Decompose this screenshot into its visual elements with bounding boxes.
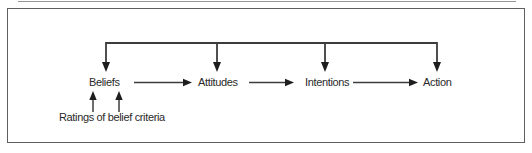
feedback-arrowhead-beliefs: [102, 62, 110, 72]
node-action: Action: [423, 76, 451, 89]
feedback-arrowhead-attitudes: [213, 62, 221, 72]
node-intentions: Intentions: [305, 76, 349, 89]
input-criteria-label: Ratings of belief criteria: [59, 111, 165, 124]
feedback-arrowhead-intentions: [321, 62, 329, 72]
input-arrowhead-left: [89, 91, 96, 100]
arrows-layer: [0, 0, 532, 153]
feedback-line: [106, 43, 437, 63]
node-beliefs: Beliefs: [89, 76, 120, 89]
input-arrowhead-right: [115, 91, 122, 100]
flow-arrowhead-beliefs-attitudes: [183, 79, 192, 87]
node-attitudes: Attitudes: [198, 76, 238, 89]
flow-arrowhead-intentions-action: [409, 79, 418, 87]
feedback-arrowhead-action: [433, 62, 441, 72]
flow-arrowhead-attitudes-intentions: [285, 79, 294, 87]
figure-page: Beliefs Attitudes Intentions Action Rati…: [0, 0, 532, 153]
